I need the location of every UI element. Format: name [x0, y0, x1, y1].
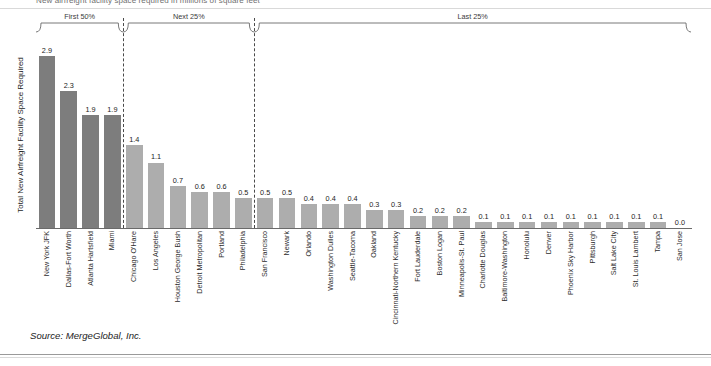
x-label-slot: Los Angeles	[145, 231, 167, 331]
bar[interactable]	[82, 115, 99, 228]
bar-value-label: 0.2	[413, 207, 423, 214]
bar-slot[interactable]: 0.2	[429, 38, 451, 228]
bar-slot[interactable]: 0.2	[451, 38, 473, 228]
bar-value-label: 0.1	[588, 213, 598, 220]
x-label-slot: Honolulu	[516, 231, 538, 331]
bar-value-label: 2.9	[42, 47, 52, 54]
x-label-slot: Atlanta Hartsfield	[80, 231, 102, 331]
bar-slot[interactable]: 0.1	[647, 38, 669, 228]
x-label-slot: Seattle-Tacoma	[342, 231, 364, 331]
bar-slot[interactable]: 0.5	[232, 38, 254, 228]
bar-slot[interactable]: 1.4	[123, 38, 145, 228]
x-axis-tick-label: Charlotte Douglas	[480, 231, 487, 289]
bar-slot[interactable]: 0.1	[625, 38, 647, 228]
bar[interactable]	[322, 204, 339, 228]
group-bracket-band: First 50%Next 25%Last 25%	[36, 18, 691, 40]
bar-slot[interactable]: 0.7	[167, 38, 189, 228]
bar[interactable]	[170, 186, 187, 228]
bar-slot[interactable]: 0.4	[298, 38, 320, 228]
bar-slot[interactable]: 0.4	[342, 38, 364, 228]
bar-slot[interactable]: 0.5	[276, 38, 298, 228]
bar[interactable]	[191, 192, 208, 228]
x-axis-tick-label: Atlanta Hartsfield	[87, 231, 94, 286]
x-axis-tick-label: Oakland	[371, 231, 378, 258]
bar[interactable]	[301, 204, 318, 228]
bar-slot[interactable]: 0.1	[582, 38, 604, 228]
bar-slot[interactable]: 0.4	[320, 38, 342, 228]
bar-slot[interactable]: 0.3	[385, 38, 407, 228]
bar-slot[interactable]: 0.1	[538, 38, 560, 228]
bar-value-label: 0.6	[195, 183, 205, 190]
bar-value-label: 0.5	[260, 189, 270, 196]
group-divider	[254, 18, 255, 228]
bar-value-label: 0.4	[347, 195, 357, 202]
x-axis-tick-label: Phoenix Sky Harbor	[567, 231, 574, 295]
x-axis-tick-label: Pittsburgh	[589, 231, 596, 263]
x-axis-tick-label: Minneapolis-St. Paul	[458, 231, 465, 297]
x-axis-tick-label: Orlando	[305, 231, 312, 257]
bar[interactable]	[213, 192, 230, 228]
bar-value-label: 0.1	[631, 213, 641, 220]
bar-value-label: 1.4	[129, 136, 139, 143]
x-axis-line	[36, 228, 692, 229]
bar[interactable]	[39, 56, 56, 228]
x-label-slot: Chicago O'Hare	[123, 231, 145, 331]
bar-value-label: 1.9	[107, 106, 117, 113]
bar-value-label: 0.7	[173, 177, 183, 184]
bar-slot[interactable]: 2.9	[36, 38, 58, 228]
x-axis-tick-label: Salt Lake City	[611, 231, 618, 275]
x-axis-tick-label: Boston Logan	[436, 231, 443, 275]
x-axis-tick-label: Baltimore-Washington	[502, 231, 509, 301]
x-label-slot: Boston Logan	[429, 231, 451, 331]
bar-slot[interactable]: 0.1	[560, 38, 582, 228]
bar-slot[interactable]: 1.9	[101, 38, 123, 228]
bar[interactable]	[60, 91, 77, 228]
bar[interactable]	[344, 204, 361, 228]
x-label-slot: Phoenix Sky Harbor	[560, 231, 582, 331]
bar-slot[interactable]: 0.1	[604, 38, 626, 228]
bar[interactable]	[257, 198, 274, 228]
bar-value-label: 1.1	[151, 153, 161, 160]
bar-slot[interactable]: 0.6	[189, 38, 211, 228]
bar[interactable]	[104, 115, 121, 228]
bar[interactable]	[235, 198, 252, 228]
bar[interactable]	[388, 210, 405, 228]
x-axis-tick-label: Los Angeles	[152, 231, 159, 270]
bottom-rule-secondary	[0, 357, 711, 358]
group-bracket-label: Next 25%	[173, 12, 205, 21]
x-axis-labels: New York JFKDallas-Fort WorthAtlanta Har…	[36, 231, 691, 331]
bar-slot[interactable]: 0.3	[363, 38, 385, 228]
x-axis-tick-label: Washington Dulles	[327, 231, 334, 291]
x-label-slot: Fort Lauderdale	[407, 231, 429, 331]
bar[interactable]	[410, 216, 427, 228]
x-label-slot: Orlando	[298, 231, 320, 331]
x-label-slot: Dallas-Fort Worth	[58, 231, 80, 331]
bar[interactable]	[279, 198, 296, 228]
bar-slot[interactable]: 0.6	[211, 38, 233, 228]
bar-slot[interactable]: 2.3	[58, 38, 80, 228]
bar-value-label: 0.5	[238, 189, 248, 196]
x-label-slot: Charlotte Douglas	[473, 231, 495, 331]
x-label-slot: Salt Lake City	[604, 231, 626, 331]
bar-slot[interactable]: 0.2	[407, 38, 429, 228]
x-axis-tick-label: Houston George Bush	[174, 231, 181, 302]
bar-slot[interactable]: 0.0	[669, 38, 691, 228]
bar-slot[interactable]: 1.1	[145, 38, 167, 228]
bar-slot[interactable]: 0.1	[494, 38, 516, 228]
bar[interactable]	[432, 216, 449, 228]
bar-slot[interactable]: 0.1	[516, 38, 538, 228]
bar-value-label: 0.4	[326, 195, 336, 202]
bar-value-label: 0.4	[304, 195, 314, 202]
bar[interactable]	[366, 210, 383, 228]
bar-value-label: 0.2	[435, 207, 445, 214]
x-label-slot: San Jose	[669, 231, 691, 331]
bar[interactable]	[453, 216, 470, 228]
bar-slot[interactable]: 1.9	[80, 38, 102, 228]
bar[interactable]	[148, 163, 165, 228]
bar-value-label: 0.1	[609, 213, 619, 220]
bar-value-label: 0.5	[282, 189, 292, 196]
bar-slot[interactable]: 0.1	[473, 38, 495, 228]
bar[interactable]	[126, 145, 143, 228]
bar-slot[interactable]: 0.5	[254, 38, 276, 228]
x-axis-tick-label: Newark	[283, 231, 290, 255]
